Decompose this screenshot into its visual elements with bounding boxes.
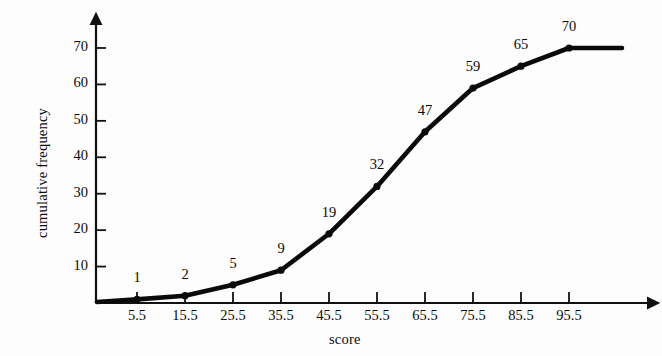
y-tick-label: 30	[48, 184, 88, 201]
data-point-marker	[181, 292, 188, 299]
data-point-marker	[229, 281, 236, 288]
data-point-label: 70	[549, 18, 589, 35]
x-tick-label: 95.5	[539, 307, 599, 324]
data-point-marker	[517, 63, 524, 70]
data-point-marker	[277, 267, 284, 274]
y-tick-label: 50	[48, 111, 88, 128]
data-point-label: 2	[165, 266, 205, 283]
cumulative-frequency-line	[97, 48, 622, 302]
y-tick-label: 10	[48, 257, 88, 274]
data-point-label: 19	[309, 204, 349, 221]
y-axis-ticks	[96, 48, 106, 267]
data-point-marker	[421, 128, 428, 135]
data-point-marker	[325, 230, 332, 237]
data-point-marker	[469, 84, 476, 91]
data-point-label: 47	[405, 102, 445, 119]
data-point-label: 59	[453, 58, 493, 75]
y-tick-label: 60	[48, 74, 88, 91]
cumulative-frequency-chart: cumulative frequency score 1020304050607…	[0, 0, 662, 356]
data-point-markers	[133, 44, 572, 303]
data-point-label: 65	[501, 36, 541, 53]
data-point-label: 9	[261, 240, 301, 257]
data-point-marker	[133, 296, 140, 303]
data-point-label: 5	[213, 255, 253, 272]
y-tick-label: 70	[48, 38, 88, 55]
y-tick-label: 20	[48, 220, 88, 237]
x-axis-title: score	[329, 331, 361, 348]
data-point-marker	[373, 183, 380, 190]
data-point-marker	[565, 44, 572, 51]
y-tick-label: 40	[48, 147, 88, 164]
chart-canvas	[0, 0, 662, 356]
data-point-label: 32	[357, 156, 397, 173]
data-point-label: 1	[117, 269, 157, 286]
